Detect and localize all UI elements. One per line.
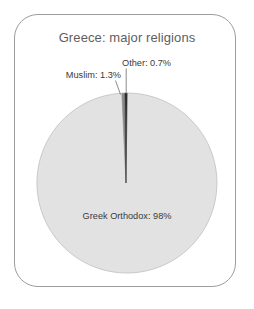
pie-chart-canvas: [0, 0, 254, 309]
slice-label-other: Other: 0.7%: [122, 58, 171, 68]
chart-title: Greece: major religions: [0, 30, 254, 45]
pie-chart-figure: Greece: major religions Muslim: 1.3% Oth…: [0, 0, 254, 309]
leader-line-muslim: [116, 81, 121, 95]
slice-label-greek-orthodox: Greek Orthodox: 98%: [0, 211, 254, 221]
slice-label-muslim: Muslim: 1.3%: [44, 70, 121, 80]
